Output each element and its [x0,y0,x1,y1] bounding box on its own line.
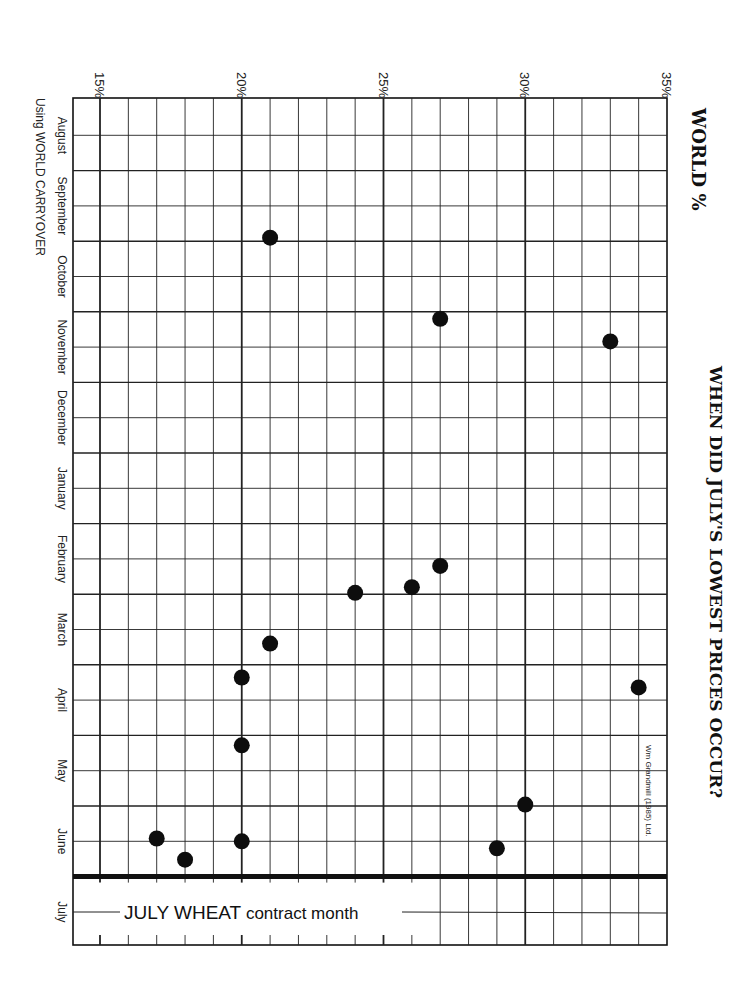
x-tick-label: 15% [92,72,107,98]
month-axis-labels: AugustSeptemberOctoberNovemberDecemberJa… [55,117,69,923]
data-point [234,670,250,686]
data-point [631,679,647,695]
month-label: June [55,828,69,854]
month-label: September [55,177,69,236]
data-point [262,230,278,246]
month-label: July [55,901,69,922]
month-label: May [55,759,69,782]
month-label: August [55,117,69,155]
july-annotation-text: JULY WHEAT contract month [124,902,358,923]
month-label: February [55,535,69,583]
data-point [234,737,250,753]
x-tick-label: 20% [234,72,249,98]
month-label: October [55,255,69,298]
data-point [404,579,420,595]
data-point [262,636,278,652]
x-tick-label: 30% [517,72,532,98]
plot-border [73,98,667,945]
month-label: March [55,613,69,646]
july-contract-annotation: JULY WHEAT contract month [73,902,667,923]
data-point [234,833,250,849]
chart-title: WHEN DID JULY'S LOWEST PRICES OCCUR? [706,365,726,798]
data-point [432,311,448,327]
data-point [517,797,533,813]
data-point [177,852,193,868]
month-label: November [55,319,69,374]
month-label: December [55,390,69,445]
scatter-chart: 15%20%25%30%35% AugustSeptemberOctoberNo… [0,0,732,997]
x-tick-label: 35% [659,72,674,98]
month-label: January [55,467,69,510]
chart-subtitle: Using WORLD CARRYOVER [33,98,47,256]
axis-title-world-percent: WORLD % [688,107,709,211]
data-point [149,830,165,846]
data-point [347,585,363,601]
credit-text: Wm Grandmill (1985) Ltd. [644,745,653,837]
grid [73,98,667,945]
month-label: April [55,688,69,712]
data-point [432,558,448,574]
data-point [489,840,505,856]
x-axis-ticks: 15%20%25%30%35% [92,72,674,98]
x-tick-label: 25% [376,72,391,98]
data-points [149,230,647,868]
data-point [602,333,618,349]
